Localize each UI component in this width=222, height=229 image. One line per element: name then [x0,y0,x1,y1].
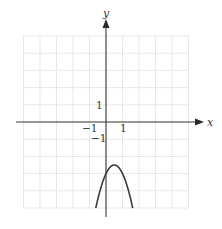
parabola-graph: x y 1 −1 1 −1 [0,0,222,229]
x-axis-label: x [207,116,214,129]
y-axis-arrow-icon [103,19,110,28]
x-tick-label-1: 1 [120,122,127,134]
y-axis-label: y [102,7,110,20]
parabola-curve [96,165,133,208]
y-tick-label-1: 1 [96,99,103,111]
x-axis-arrow-icon [195,119,204,126]
y-tick-label-neg1: −1 [91,132,106,144]
